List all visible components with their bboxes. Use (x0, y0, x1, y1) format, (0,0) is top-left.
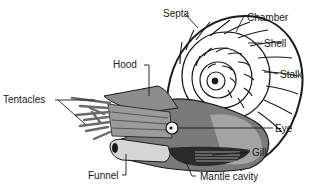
label-tentacles: Tentacles (3, 94, 45, 105)
label-shell: Shell (264, 38, 286, 49)
tentacles (72, 98, 110, 139)
label-funnel: Funnel (88, 170, 119, 181)
label-eye: Eye (275, 123, 292, 134)
label-hood: Hood (113, 59, 137, 70)
label-chamber: Chamber (247, 12, 288, 23)
label-septa: Septa (163, 8, 189, 19)
label-gill: Gill (252, 147, 266, 158)
nautilus-diagram (0, 0, 310, 191)
label-stalk: Stalk (280, 69, 302, 80)
label-mantle-cavity: Mantle cavity (200, 171, 258, 182)
